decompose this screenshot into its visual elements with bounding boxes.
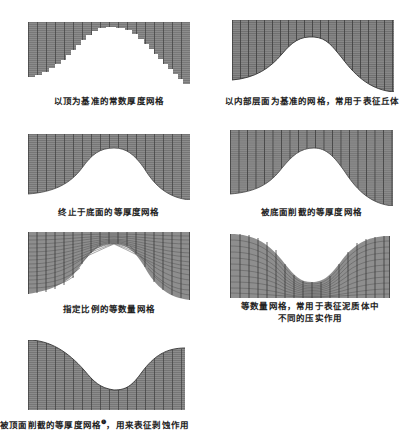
- caption-suffix-text: ，用来表征剥蚀作用: [106, 420, 189, 430]
- caption-internal-surface: 以内部层面为基准的网格，常用于表征丘体: [215, 95, 409, 107]
- caption-truncated-by-top: 被顶面削截的等厚度网格❶，用来表征剥蚀作用: [0, 416, 210, 431]
- grid-panel-top-referenced: [28, 22, 190, 84]
- grid-panel-terminated-at-base: [28, 134, 190, 200]
- caption-line-1: 等数量网格，常用于表征泥质体中: [220, 300, 400, 312]
- erosion-grid-diagram: [28, 340, 185, 410]
- caption-truncated-by-base: 被底面削截的等厚度网格: [230, 206, 393, 218]
- grid-panel-truncated-by-top: [28, 340, 185, 410]
- valley-grid-diagram: [230, 232, 390, 298]
- caption-equal-count-compaction: 等数量网格，常用于表征泥质体中 不同的压实作用: [220, 300, 400, 324]
- caption-top-referenced: 以顶为基准的常数厚度网格: [28, 95, 190, 107]
- terminated-grid-diagram: [28, 134, 190, 200]
- grid-panel-proportional: [28, 232, 190, 300]
- truncated-base-grid-diagram: [230, 130, 393, 206]
- grid-panel-truncated-by-base: [230, 130, 393, 206]
- stepped-grid-diagram: [28, 22, 190, 84]
- caption-proportional: 指定比例的等数量网格: [28, 303, 190, 315]
- mound-grid-diagram: [232, 20, 394, 92]
- proportional-grid-diagram: [28, 232, 190, 300]
- caption-main-text: 被顶面削截的等厚度网格: [0, 420, 101, 430]
- caption-line-2: 不同的压实作用: [220, 312, 400, 324]
- grid-panel-equal-count-compaction: [230, 232, 390, 298]
- grid-panel-internal-surface: [232, 20, 394, 92]
- caption-terminated-at-base: 终止于底面的等厚度网格: [28, 206, 190, 218]
